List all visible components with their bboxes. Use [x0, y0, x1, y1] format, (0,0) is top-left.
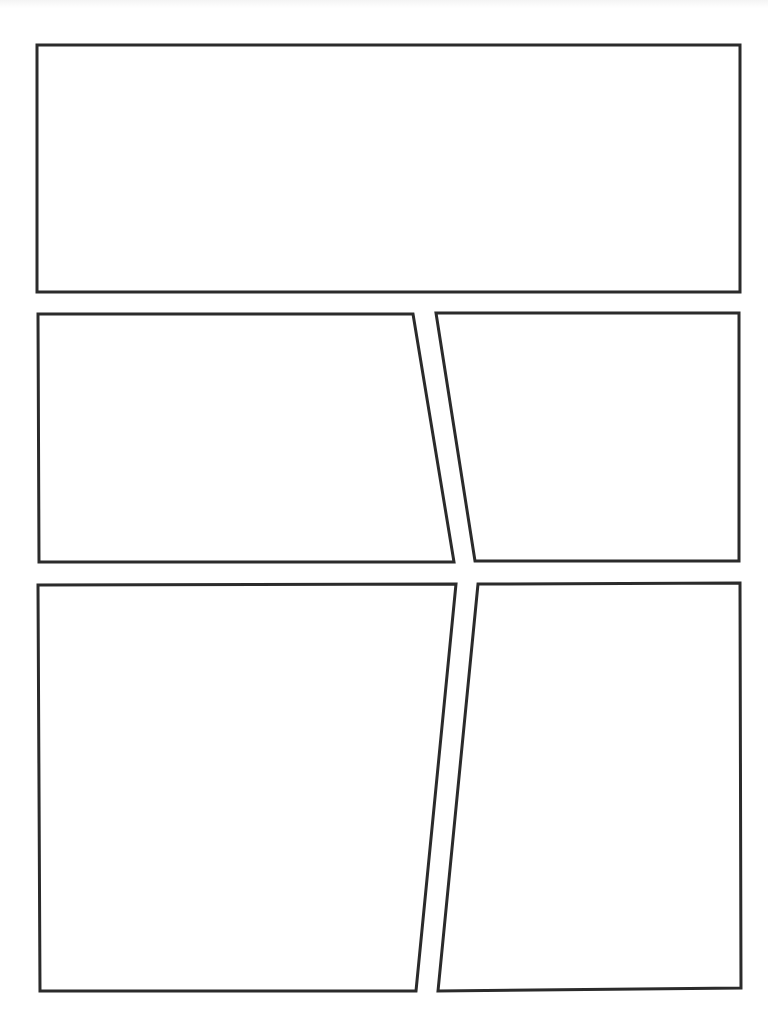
panel-layout	[0, 0, 768, 1022]
panel-2	[38, 314, 454, 562]
comic-page	[0, 0, 768, 1022]
panel-4	[38, 584, 456, 991]
panel-1	[37, 45, 740, 292]
panel-5	[438, 583, 741, 991]
panel-3	[436, 313, 739, 561]
